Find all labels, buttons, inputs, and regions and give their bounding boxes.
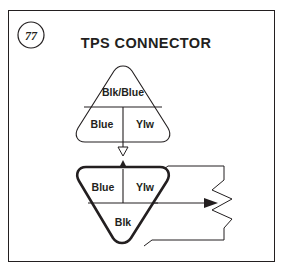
figure-number-text: 77 bbox=[25, 29, 38, 43]
lower-pin-label-top-left: Blue bbox=[92, 181, 115, 193]
arrow-right-icon bbox=[204, 198, 218, 208]
tps-connector-shape: Blue Ylw Blk bbox=[77, 167, 169, 243]
harness-connector-shape: Blk/Blue Blue Ylw bbox=[76, 66, 170, 142]
upper-pin-label-top: Blk/Blue bbox=[102, 86, 144, 98]
lead-wire-bottom bbox=[144, 228, 224, 246]
tps-connector-diagram: 77 TPS CONNECTOR Blk/Blue Blue Ylw bbox=[0, 0, 285, 273]
page-title: TPS CONNECTOR bbox=[81, 35, 212, 51]
lower-pin-label-top-right: Ylw bbox=[136, 181, 155, 193]
arrow-down-icon bbox=[118, 142, 128, 156]
upper-pin-label-bottom-right: Ylw bbox=[136, 118, 155, 130]
lower-pin-label-bottom: Blk bbox=[115, 216, 132, 228]
figure-number-badge: 77 bbox=[18, 22, 44, 48]
upper-pin-label-bottom-left: Blue bbox=[91, 118, 114, 130]
diagram-page: 77 TPS CONNECTOR Blk/Blue Blue Ylw bbox=[0, 0, 285, 273]
